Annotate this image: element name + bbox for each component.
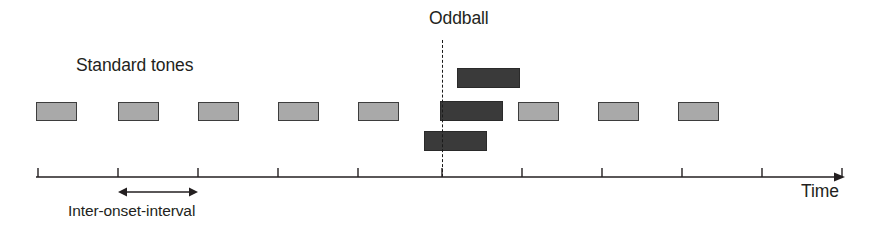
oddball-paradigm-figure: Standard tones Oddball Time Inter-onset-…	[0, 0, 882, 229]
ioi-arrowhead	[118, 188, 127, 197]
inter-onset-interval-arrow	[0, 0, 882, 229]
ioi-arrowhead	[189, 188, 198, 197]
